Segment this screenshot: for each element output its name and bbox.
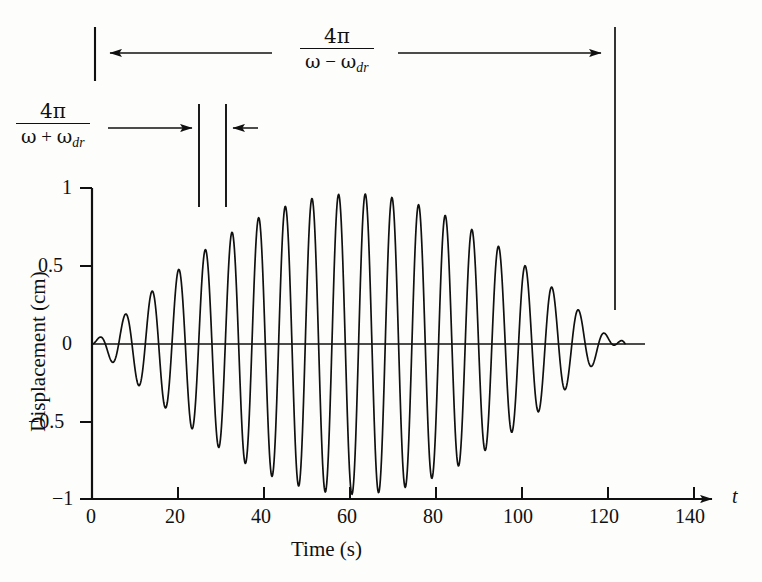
- beat-period-denominator: ω − ωdr: [300, 49, 374, 75]
- x-tick-label-80: 80: [423, 506, 443, 526]
- x-tick-label-0: 0: [86, 506, 96, 526]
- beat-period-expression: 4π ω − ωdr: [300, 25, 374, 76]
- x-tick-label-100: 100: [503, 506, 533, 526]
- waveform-curve: [92, 194, 625, 494]
- y-tick-label-1: 1: [62, 177, 72, 197]
- beats-figure: 4π ω − ωdr 4π ω + ωdr 1 0.5 0 −0.5 −1 0 …: [0, 0, 762, 582]
- x-tick-label-60: 60: [337, 506, 357, 526]
- carrier-period-annotation: [108, 104, 258, 207]
- y-tick-marks: [80, 188, 92, 499]
- y-tick-label-0: 0: [62, 333, 72, 353]
- x-axis-title: Time (s): [291, 539, 362, 560]
- x-tick-label-140: 140: [675, 506, 705, 526]
- plot-canvas: [0, 0, 762, 582]
- x-tick-marks: [178, 487, 694, 499]
- carrier-period-numerator: 4π: [16, 100, 90, 123]
- x-tick-label-20: 20: [165, 506, 185, 526]
- carrier-period-denominator: ω + ωdr: [16, 124, 90, 150]
- x-axis-variable: t: [732, 486, 738, 506]
- y-tick-label-neg-1: −1: [52, 488, 73, 508]
- x-tick-label-40: 40: [251, 506, 271, 526]
- y-axis-title: Displacement (cm): [28, 242, 49, 462]
- beat-period-numerator: 4π: [300, 25, 374, 48]
- x-tick-label-120: 120: [589, 506, 619, 526]
- carrier-period-expression: 4π ω + ωdr: [16, 100, 90, 151]
